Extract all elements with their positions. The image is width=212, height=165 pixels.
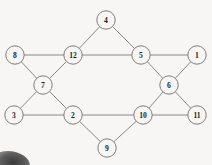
graph-edge-9-2 — [80, 121, 101, 141]
graph-edge-7-2 — [50, 92, 67, 109]
node-label-7: 7 — [41, 81, 45, 90]
graph-edge-6-11 — [175, 92, 190, 109]
node-label-11: 11 — [193, 111, 200, 120]
graph-node-7[interactable]: 7 — [34, 76, 52, 94]
node-label-5: 5 — [139, 51, 143, 60]
node-label-3: 3 — [12, 111, 16, 120]
node-label-1: 1 — [195, 51, 199, 60]
graph-node-3[interactable]: 3 — [5, 106, 23, 124]
graph-node-6[interactable]: 6 — [160, 76, 178, 94]
graph-edge-6-10 — [149, 92, 163, 108]
node-label-12: 12 — [69, 51, 77, 60]
node-label-2: 2 — [71, 111, 75, 120]
graph-edge-7-3 — [20, 92, 36, 109]
graph-edge-4-5 — [113, 27, 135, 49]
graph-node-5[interactable]: 5 — [132, 46, 150, 64]
node-label-8: 8 — [13, 51, 17, 60]
graph-node-11[interactable]: 11 — [188, 106, 206, 124]
node-label-4: 4 — [104, 16, 108, 25]
graph-edge-6-5 — [147, 62, 162, 79]
graph-edge-9-10 — [114, 121, 136, 142]
graph-svg: 123456789101112 — [0, 0, 212, 165]
graph-node-12[interactable]: 12 — [64, 46, 82, 64]
graph-node-10[interactable]: 10 — [134, 106, 152, 124]
graph-node-9[interactable]: 9 — [98, 139, 116, 157]
graph-node-8[interactable]: 8 — [6, 46, 24, 64]
graph-node-1[interactable]: 1 — [188, 46, 206, 64]
node-layer: 123456789101112 — [5, 11, 206, 157]
node-label-6: 6 — [167, 81, 171, 90]
node-label-10: 10 — [139, 111, 147, 120]
graph-node-4[interactable]: 4 — [97, 11, 115, 29]
diagram-canvas: 123456789101112 — [0, 0, 212, 165]
node-label-9: 9 — [105, 144, 109, 153]
graph-edge-7-8 — [21, 62, 36, 79]
graph-edge-6-1 — [175, 62, 190, 79]
graph-node-2[interactable]: 2 — [64, 106, 82, 124]
graph-edge-7-12 — [50, 62, 67, 79]
graph-edge-4-12 — [79, 27, 99, 49]
